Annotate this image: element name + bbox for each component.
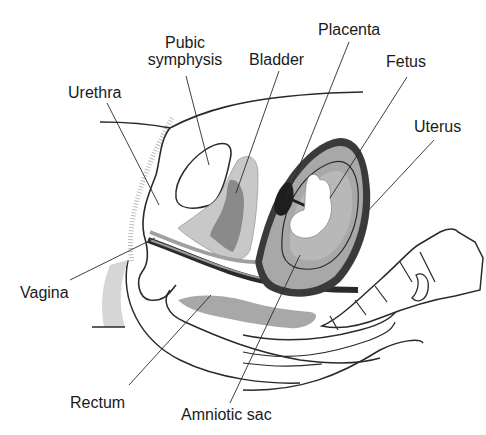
- diagram-canvas: Pubic symphysis Bladder Placenta Fetus U…: [0, 0, 486, 435]
- leader-pubic-symphysis: [186, 76, 209, 165]
- rectum-shape: [178, 296, 316, 329]
- label-uterus: Uterus: [414, 118, 461, 135]
- label-bladder: Bladder: [249, 51, 304, 68]
- label-pubic-symphysis: Pubic symphysis: [140, 34, 230, 68]
- label-urethra: Urethra: [68, 84, 121, 101]
- label-fetus: Fetus: [386, 53, 426, 70]
- label-pubic-symphysis-line1: Pubic: [140, 34, 230, 51]
- leader-rectum: [129, 295, 211, 385]
- label-pubic-symphysis-line2: symphysis: [140, 51, 230, 68]
- inner-curve-c: [243, 363, 322, 366]
- leader-urethra: [107, 103, 159, 205]
- body-contour: [139, 128, 176, 300]
- label-rectum: Rectum: [70, 394, 125, 411]
- leader-uterus: [365, 140, 434, 214]
- label-amniotic-sac: Amniotic sac: [181, 406, 272, 423]
- label-vagina: Vagina: [20, 284, 69, 301]
- buttock-shade: [102, 260, 128, 327]
- label-placenta: Placenta: [318, 21, 380, 38]
- abdominal-wall-line: [100, 92, 363, 128]
